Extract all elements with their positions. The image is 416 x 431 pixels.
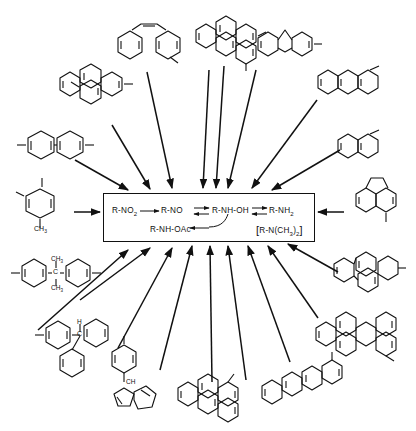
arrow-triphenyl xyxy=(118,248,172,348)
arrow-fluoranthene xyxy=(288,244,338,272)
label-bisphenyl-carbon: C xyxy=(53,268,58,275)
arrow-stilbene xyxy=(147,72,172,188)
label-bisphenyl-methyl-bottom: CH3 xyxy=(51,284,63,293)
arrow-anthracene xyxy=(252,100,317,188)
arrow-chrysene2 xyxy=(216,66,224,188)
arrow-naphthalene xyxy=(272,150,340,190)
arrow-chrysene xyxy=(203,70,209,188)
arrow-bisphenyl xyxy=(80,248,150,300)
metabolic-pathway-box: R-NO2 R-NO R-NH-OH R-NH2 R-NH-OAc [R-N(C… xyxy=(103,193,315,242)
label-fluorenyl-ch: CH xyxy=(126,378,135,385)
arrow-methylchry xyxy=(210,246,212,382)
label-toluidine-methyl: CH3 xyxy=(34,225,47,234)
arrow-fluorenyl xyxy=(160,246,192,370)
label-bisphenyl-methyl-top: CH3 xyxy=(51,255,63,264)
label-triphenyl-carbon: C xyxy=(77,330,82,337)
arrow-biphenyl xyxy=(75,160,128,190)
arrow-pyrene xyxy=(112,125,150,189)
arrow-fluorene xyxy=(228,70,256,188)
arrow-benzanth2 xyxy=(228,246,246,380)
label-triphenyl-hydrogen: H xyxy=(77,318,82,325)
figure-canvas: R-NO2 R-NO R-NH-OH R-NH2 R-NH-OAc [R-N(C… xyxy=(0,0,416,431)
arrow-benzanth xyxy=(248,246,290,362)
internal-reaction-arrows xyxy=(104,194,316,243)
